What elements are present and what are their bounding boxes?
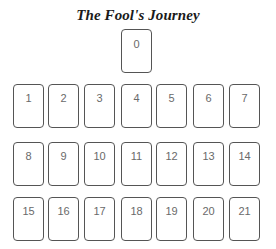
- card-number: 17: [85, 205, 114, 217]
- card-3: 3: [84, 84, 115, 128]
- card-21: 21: [229, 197, 260, 241]
- card-number: 12: [157, 150, 186, 162]
- card-number: 11: [122, 150, 151, 162]
- card-15: 15: [13, 197, 44, 241]
- card-number: 15: [14, 205, 43, 217]
- card-number: 4: [122, 92, 151, 104]
- card-20: 20: [193, 197, 224, 241]
- card-number: 20: [194, 205, 223, 217]
- card-number: 7: [230, 92, 259, 104]
- card-number: 21: [230, 205, 259, 217]
- card-8: 8: [13, 142, 44, 186]
- card-4: 4: [121, 84, 152, 128]
- card-13: 13: [193, 142, 224, 186]
- card-number: 19: [157, 205, 186, 217]
- card-10: 10: [84, 142, 115, 186]
- card-number: 3: [85, 92, 114, 104]
- card-number: 9: [49, 150, 78, 162]
- card-7: 7: [229, 84, 260, 128]
- card-11: 11: [121, 142, 152, 186]
- card-14: 14: [229, 142, 260, 186]
- card-19: 19: [156, 197, 187, 241]
- fool-card: 0: [121, 29, 152, 73]
- card-number: 5: [157, 92, 186, 104]
- card-number: 2: [49, 92, 78, 104]
- card-number: 10: [85, 150, 114, 162]
- card-17: 17: [84, 197, 115, 241]
- card-18: 18: [121, 197, 152, 241]
- card-number: 8: [14, 150, 43, 162]
- diagram-title: The Fool's Journey: [0, 7, 276, 24]
- card-number: 1: [14, 92, 43, 104]
- card-9: 9: [48, 142, 79, 186]
- card-number: 14: [230, 150, 259, 162]
- card-number: 18: [122, 205, 151, 217]
- card-2: 2: [48, 84, 79, 128]
- card-16: 16: [48, 197, 79, 241]
- card-number: 16: [49, 205, 78, 217]
- card-5: 5: [156, 84, 187, 128]
- card-number: 0: [122, 38, 151, 50]
- card-number: 6: [194, 92, 223, 104]
- card-number: 13: [194, 150, 223, 162]
- card-12: 12: [156, 142, 187, 186]
- card-1: 1: [13, 84, 44, 128]
- card-6: 6: [193, 84, 224, 128]
